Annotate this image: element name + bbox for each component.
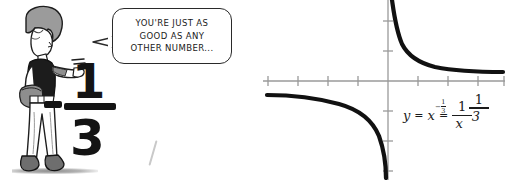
equation-label: y = x − 1 3 = 1 x — [403, 100, 472, 130]
exponent-numerator: 1 — [441, 99, 445, 106]
speech-line-3: OTHER NUMBER... — [130, 42, 213, 55]
speech-bubble-tail — [92, 36, 114, 48]
rhs-exponent: 1 3 — [469, 93, 489, 123]
speech-line-2: GOOD AS ANY — [140, 30, 205, 43]
graph-panel: y = x − 1 3 = 1 x — [255, 0, 509, 180]
speech-bubble: YOU'RE JUST AS GOOD AS ANY OTHER NUMBER.… — [112, 8, 232, 64]
rhs-numerator: 1 — [458, 100, 466, 113]
rhs-exponent-denominator: 3 — [472, 110, 486, 123]
equation-rhs-fraction: 1 x 1 3 — [452, 100, 472, 130]
curve-branch-positive — [392, 0, 503, 72]
cartoon-panel: YOU'RE JUST AS GOOD AS ANY OTHER NUMBER.… — [0, 0, 255, 180]
exponent-denominator: 3 — [441, 108, 445, 115]
minus-sign — [44, 101, 62, 108]
rhs-base: x — [455, 116, 462, 131]
exponent-fraction: 1 3 — [441, 99, 446, 114]
rhs-exponent-numerator: 1 — [475, 93, 483, 106]
equation-equals-1: = — [414, 109, 423, 122]
equation-middle-exponent: − 1 3 — [435, 99, 446, 114]
equation-lhs: y — [403, 108, 410, 123]
curve-branch-negative — [267, 95, 386, 178]
fraction-numerator: 1 — [72, 58, 105, 104]
fraction-denominator: 3 — [70, 108, 105, 168]
stray-pencil-mark — [148, 140, 157, 166]
speech-line-1: YOU'RE JUST AS — [136, 17, 209, 30]
shoe-left — [21, 156, 39, 171]
rhs-denominator: x 1 3 — [455, 117, 468, 130]
equation-middle-base: x — [428, 108, 435, 123]
comic-math-figure: YOU'RE JUST AS GOOD AS ANY OTHER NUMBER.… — [0, 0, 509, 180]
equation-power-term: x − 1 3 — [428, 108, 435, 123]
function-graph — [255, 0, 509, 180]
rhs-exponent-fraction: 1 3 — [469, 93, 489, 123]
big-fraction-negative-one-third: 1 3 — [44, 58, 122, 174]
